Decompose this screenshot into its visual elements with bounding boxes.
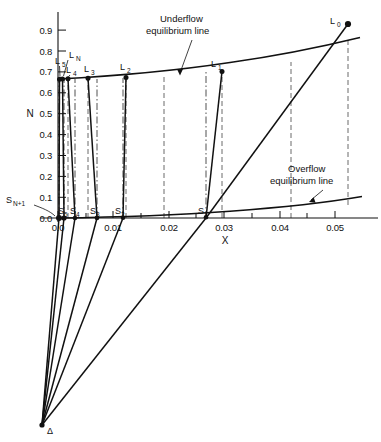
- overflow-annot-arrowhead: [309, 197, 316, 202]
- label-L5-base: L: [55, 56, 60, 66]
- y-label-7: 0.7: [39, 66, 52, 77]
- label-S1-sub: 1: [204, 211, 208, 218]
- label-L0-sub: 0: [337, 21, 341, 28]
- label-L2-base: L: [120, 62, 125, 72]
- operating-upper-3: [88, 78, 97, 218]
- x-label-4: 0.04: [271, 222, 289, 233]
- y-label-8: 0.8: [39, 46, 52, 57]
- leader-L4: [69, 75, 71, 77]
- label-L4-base: L: [66, 65, 71, 75]
- overflow-annot-line1: Overflow: [288, 163, 326, 174]
- label-L4: L 4: [66, 65, 77, 77]
- y-axis-title: N: [26, 108, 33, 119]
- operating-upper-5: [59, 79, 60, 218]
- label-L3: L 3: [84, 64, 95, 76]
- label-L3-base: L: [84, 64, 89, 74]
- operating-upper-4: [68, 79, 75, 218]
- x-label-3: 0.03: [215, 222, 233, 233]
- label-S3-sub: 3: [96, 211, 100, 218]
- label-SN1-base: S: [6, 195, 12, 205]
- pole-point-delta: Δ: [39, 422, 53, 436]
- label-L0: L 0: [330, 16, 341, 28]
- underflow-annot-line1: Underflow: [160, 13, 203, 24]
- y-label-6: 0.6: [39, 87, 52, 98]
- overflow-equilibrium-curve: [58, 197, 362, 219]
- label-LN-base: L: [69, 50, 74, 60]
- operating-lines-upper: [59, 24, 348, 218]
- label-L5-sub: 5: [62, 61, 66, 68]
- label-L1-base: L: [211, 59, 216, 69]
- x-label-5: 0.05: [326, 222, 344, 233]
- operating-line-5: [42, 218, 64, 425]
- y-label-5: 0.5: [39, 108, 52, 119]
- point-L3: [86, 76, 91, 81]
- y-label-9: 0.9: [39, 25, 52, 36]
- y-tick-labels: 0.9 0.8 0.7 0.6 0.5 0.4 0.3 0.2 0.1 0.0 …: [26, 25, 52, 224]
- overflow-annot-line2: equilibrium line: [270, 175, 333, 186]
- operating-upper-0: [206, 24, 348, 218]
- construction-lines-dashed: [68, 40, 348, 218]
- operating-line-1: [42, 218, 206, 425]
- underflow-annot-arrowhead: [177, 69, 183, 76]
- label-L4-sub: 4: [73, 70, 77, 77]
- label-S2-sub: 2: [121, 211, 125, 218]
- underflow-annot-line2: equilibrium line: [146, 25, 209, 36]
- label-L2: L 2: [120, 62, 131, 74]
- point-L2: [124, 75, 129, 80]
- label-S4-sub: 4: [76, 211, 80, 218]
- y-label-0: 0.0: [39, 213, 52, 224]
- construction-lines-dashdot: [59, 72, 206, 218]
- stagewise-leaching-diagram: 0.9 0.8 0.7 0.6 0.5 0.4 0.3 0.2 0.1 0.0 …: [0, 0, 381, 442]
- x-axis-title: X: [222, 235, 229, 246]
- point-L4: [66, 76, 71, 81]
- label-L5: L 5: [55, 56, 66, 68]
- pole-marker: [39, 422, 44, 427]
- pole-label: Δ: [47, 426, 53, 436]
- point-L0: [345, 21, 351, 27]
- operating-lines: [42, 218, 206, 425]
- annotation-overflow: Overflow equilibrium line: [270, 163, 333, 203]
- figure-svg: 0.9 0.8 0.7 0.6 0.5 0.4 0.3 0.2 0.1 0.0 …: [0, 0, 381, 442]
- label-SN1: S N+1: [6, 195, 25, 207]
- label-L1-sub: 1: [218, 64, 222, 71]
- y-label-4: 0.4: [39, 129, 52, 140]
- point-L5: [57, 77, 62, 82]
- leader-L5: [60, 66, 61, 77]
- label-LN: L N: [69, 50, 81, 62]
- underflow-equilibrium-curve: [58, 38, 360, 80]
- x-label-2: 0.02: [160, 222, 178, 233]
- label-L0-base: L: [330, 16, 335, 26]
- label-S5-sub: 5: [64, 211, 68, 218]
- label-SN1-sub: N+1: [13, 200, 25, 207]
- operating-line-2: [42, 218, 123, 425]
- label-S3: S 3: [90, 206, 100, 218]
- label-L2-sub: 2: [127, 67, 131, 74]
- y-label-3: 0.3: [39, 150, 52, 161]
- y-label-2: 0.2: [39, 171, 52, 182]
- label-LN-sub: N: [76, 55, 81, 62]
- y-label-1: 0.1: [39, 192, 52, 203]
- operating-upper-1: [206, 71, 222, 218]
- label-L3-sub: 3: [91, 69, 95, 76]
